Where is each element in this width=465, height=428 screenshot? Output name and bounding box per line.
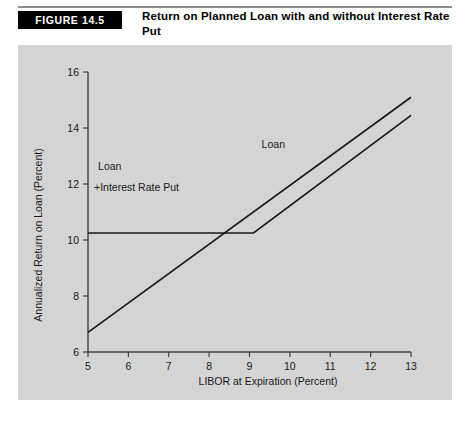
y-tick-label-6: 6 (73, 346, 79, 358)
annotation-loan-put-line1: Loan (98, 160, 122, 172)
y-tick-label-12: 12 (67, 178, 79, 190)
y-axis-title: Annualized Return on Loan (Percent) (32, 148, 44, 321)
figure-title: Return on Planned Loan with and without … (142, 9, 452, 38)
figure-header: FIGURE 14.5 Return on Planned Loan with … (18, 6, 452, 42)
x-tick-label-6: 6 (125, 360, 131, 372)
x-tick-label-10: 10 (284, 360, 296, 372)
x-tick-label-12: 12 (365, 360, 377, 372)
y-tick-label-8: 8 (73, 290, 79, 302)
y-tick-label-10: 10 (67, 234, 79, 246)
chart-panel: 6810121416 5678910111213 Annualized Retu… (18, 45, 452, 400)
x-tick-label-5: 5 (85, 360, 91, 372)
x-tick-label-11: 11 (325, 360, 336, 372)
x-axis-ticks (88, 352, 411, 357)
x-axis-title: LIBOR at Expiration (Percent) (199, 375, 338, 387)
series-line-loan (88, 97, 411, 332)
figure-number-badge: FIGURE 14.5 (18, 11, 122, 29)
annotation-loan: Loan (262, 138, 286, 150)
x-axis-tick-labels: 5678910111213 (85, 360, 417, 372)
x-tick-label-9: 9 (247, 360, 253, 372)
y-tick-label-14: 14 (67, 122, 79, 134)
y-axis-ticks (83, 72, 88, 352)
header-divider (18, 6, 452, 8)
x-tick-label-7: 7 (166, 360, 172, 372)
line-chart: 6810121416 5678910111213 Annualized Retu… (18, 45, 452, 400)
annotation-loan-put-line2: +Interest Rate Put (94, 181, 179, 193)
x-tick-label-8: 8 (206, 360, 212, 372)
x-tick-label-13: 13 (405, 360, 417, 372)
y-tick-label-16: 16 (67, 66, 79, 78)
y-axis-tick-labels: 6810121416 (67, 66, 79, 358)
